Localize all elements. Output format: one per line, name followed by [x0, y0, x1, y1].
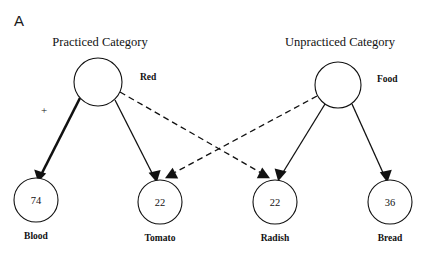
exemplar-label-blood: Blood	[24, 231, 48, 241]
edge-red-to-tomato	[115, 100, 161, 183]
category-node-food[interactable]	[315, 62, 361, 108]
exemplar-value-blood: 74	[31, 195, 42, 206]
exemplar-value-radish: 22	[270, 197, 281, 208]
exemplar-value-bread: 36	[385, 197, 396, 208]
exemplar-node-tomato[interactable]: 22 Tomato	[138, 180, 182, 243]
exemplar-label-radish: Radish	[261, 233, 290, 243]
category-circle-food[interactable]	[315, 62, 361, 108]
retrieval-induced-forgetting-diagram: A Practiced Category Unpracticed Categor…	[0, 0, 433, 261]
category-label-food: Food	[377, 74, 398, 84]
exemplar-node-radish[interactable]: 22 Radish	[253, 180, 297, 243]
panel-letter: A	[14, 12, 24, 29]
category-label-red: Red	[140, 72, 157, 82]
edge-food-to-bread	[352, 104, 392, 182]
figure-panel: A Practiced Category Unpracticed Categor…	[0, 0, 433, 261]
column-title-practiced: Practiced Category	[52, 35, 148, 49]
exemplar-value-tomato: 22	[155, 197, 166, 208]
category-node-red[interactable]	[74, 58, 122, 106]
edge-food-to-tomato	[165, 96, 317, 178]
category-circle-red[interactable]	[74, 58, 122, 106]
edge-food-to-radish	[275, 104, 325, 181]
exemplar-label-tomato: Tomato	[145, 233, 176, 243]
exemplar-node-bread[interactable]: 36 Bread	[368, 180, 412, 243]
exemplar-label-bread: Bread	[378, 233, 403, 243]
exemplar-node-blood[interactable]: 74 Blood	[14, 178, 58, 241]
column-title-unpracticed: Unpracticed Category	[285, 35, 396, 49]
edge-red-to-radish	[120, 92, 270, 178]
plus-annotation: +	[41, 104, 47, 116]
